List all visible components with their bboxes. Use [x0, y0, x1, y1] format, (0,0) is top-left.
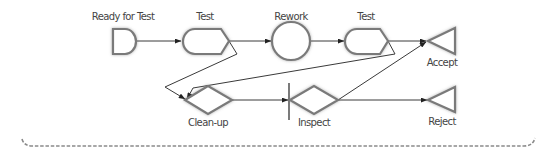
dashed-brace [22, 138, 535, 146]
display-shape-icon [345, 29, 388, 54]
diamond-shape-icon [290, 86, 338, 114]
node-test-2[interactable]: Test [345, 11, 388, 54]
node-label: Reject [428, 116, 456, 127]
process-flow-diagram: Ready for Test Test Rework Test Accept C… [0, 0, 551, 156]
circle-shape-icon [272, 22, 310, 60]
node-clean-up[interactable]: Clean-up [185, 86, 232, 128]
triangle-shape-icon [428, 28, 455, 54]
node-reject[interactable]: Reject [428, 87, 456, 127]
node-ready-for-test[interactable]: Ready for Test [92, 11, 155, 54]
node-accept[interactable]: Accept [427, 28, 458, 68]
node-label: Test [356, 11, 375, 22]
node-label: Accept [427, 57, 458, 68]
node-rework[interactable]: Rework [272, 11, 310, 60]
delay-shape-icon [113, 29, 136, 54]
node-label: Clean-up [188, 117, 228, 128]
node-inspect[interactable]: Inspect [289, 83, 338, 128]
display-shape-icon [183, 29, 229, 54]
node-label: Inspect [298, 117, 331, 128]
node-test-1[interactable]: Test [183, 11, 229, 54]
node-label: Rework [274, 11, 308, 22]
triangle-shape-icon [428, 87, 455, 112]
node-label: Ready for Test [92, 11, 155, 22]
node-label: Test [195, 11, 214, 22]
